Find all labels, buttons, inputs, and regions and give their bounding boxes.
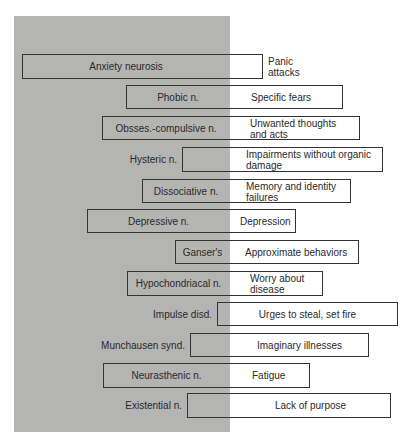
symptom-label: Panic attacks [268,56,300,78]
symptom-label: Worry about disease [250,273,304,295]
symptom-line: and acts [250,129,288,140]
symptom-line: disease [250,284,284,295]
disorder-label: Hypochondriacal n. [127,278,230,289]
symptom-label: Lack of purpose [230,400,391,411]
disorder-label: Existential n. [100,400,182,411]
disorder-label: Ganser's [175,247,230,258]
symptom-label: Memory and identity failures [246,181,336,203]
disorder-label: Impulse disd. [120,309,212,320]
disorder-label: Dissociative n. [142,186,230,197]
disorder-label: Phobic n. [126,92,230,103]
symptom-line: Impairments without organic [246,149,371,160]
symptom-label: Impairments without organic damage [246,149,371,171]
symptom-label: Fatigue [252,370,285,381]
disorder-label: Hysteric n. [100,154,177,165]
symptom-label: Urges to steal, set fire [217,309,398,320]
symptom-label: Unwanted thoughts and acts [250,118,336,140]
symptom-label: Depression [240,216,291,227]
symptom-label: Approximate behaviors [245,247,347,258]
disorder-label: Anxiety neurosis [22,61,230,72]
disorder-label: Neurasthenic n. [103,370,230,381]
symptom-line: failures [246,192,278,203]
symptom-line: Memory and identity [246,181,336,192]
disorder-label: Depressive n. [87,216,230,227]
symptom-line: Unwanted thoughts [250,118,336,129]
symptom-line: attacks [268,67,300,78]
disorder-label: Munchausen synd. [90,340,185,351]
symptom-label: Specific fears [251,92,311,103]
symptom-line: damage [246,160,282,171]
symptom-line: Panic [268,56,293,67]
symptom-line: Worry about [250,273,304,284]
symptom-label: Imaginary illnesses [230,340,369,351]
disorder-label: Obsses.-compulsive n. [102,123,230,134]
